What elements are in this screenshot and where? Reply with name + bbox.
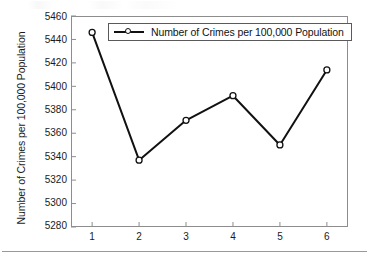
x-tick-label: 2 <box>126 231 152 242</box>
data-point-marker <box>89 29 95 35</box>
chart-figure: Number of Crimes per 100,000 Population … <box>0 0 369 259</box>
data-point-marker <box>277 142 283 148</box>
data-point-marker <box>136 157 142 163</box>
data-point-marker <box>324 67 330 73</box>
legend-marker-icon <box>114 27 144 37</box>
data-point-marker <box>183 117 189 123</box>
x-tick-label: 4 <box>220 231 246 242</box>
legend-label: Number of Crimes per 100,000 Population <box>151 26 344 38</box>
x-tick-label: 6 <box>314 231 340 242</box>
chart-legend: Number of Crimes per 100,000 Population <box>108 23 352 41</box>
x-tick-label: 3 <box>173 231 199 242</box>
x-tick-label: 1 <box>79 231 105 242</box>
bottom-separator-rule <box>2 251 367 252</box>
x-tick-label: 5 <box>267 231 293 242</box>
data-point-marker <box>230 93 236 99</box>
axis-ticks <box>71 16 327 227</box>
data-series-layer <box>89 29 330 163</box>
series-line <box>92 32 327 160</box>
